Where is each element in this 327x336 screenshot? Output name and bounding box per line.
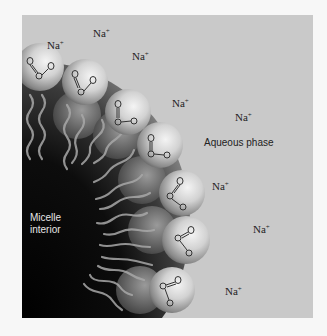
micelle-interior-label-line1: Micelle <box>30 212 90 224</box>
sodium-ion: Na+ <box>172 97 189 109</box>
aqueous-phase-label: Aqueous phase <box>204 137 274 148</box>
micelle-illustration <box>22 15 313 318</box>
micelle-interior-label: Micelle interior <box>30 212 90 236</box>
headgroup <box>62 59 108 105</box>
micelle-interior-label-line2: interior <box>30 224 90 236</box>
headgroup <box>149 267 195 313</box>
sodium-ion: Na+ <box>47 39 64 51</box>
sodium-ion: Na+ <box>132 50 149 62</box>
headgroup <box>159 170 205 216</box>
micelle-diagram: Na+ Na+ Na+ Na+ Na+ Na+ Na+ Na+ Aqueous … <box>22 15 313 318</box>
sodium-ion: Na+ <box>253 223 270 235</box>
headgroup <box>105 89 151 135</box>
sodium-ion: Na+ <box>93 27 110 39</box>
headgroup <box>137 122 183 168</box>
sodium-ion: Na+ <box>212 180 229 192</box>
headgroup <box>162 216 210 264</box>
sodium-ion: Na+ <box>225 285 242 297</box>
sodium-ion: Na+ <box>235 111 252 123</box>
